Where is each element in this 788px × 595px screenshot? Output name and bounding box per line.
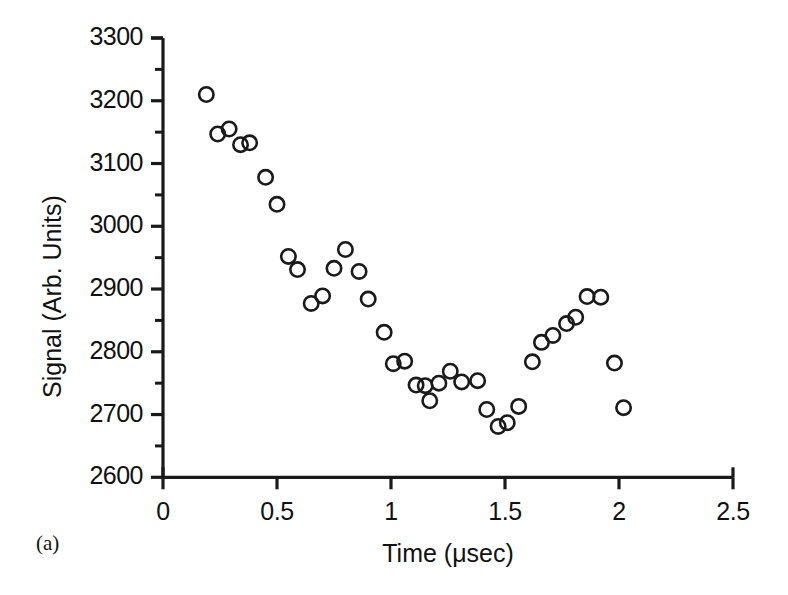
data-point: [454, 375, 468, 389]
data-point: [270, 197, 284, 211]
data-point: [480, 402, 494, 416]
data-point: [470, 373, 484, 387]
y-tick-label: 3300: [43, 22, 143, 51]
data-point: [418, 378, 432, 392]
data-point-markers: [199, 87, 631, 433]
axis-lines: [163, 38, 733, 477]
data-point: [315, 289, 329, 303]
y-tick-label: 3200: [43, 85, 143, 114]
data-point: [607, 356, 621, 370]
data-point: [511, 399, 525, 413]
y-axis-label: Signal (Arb. Units): [38, 195, 67, 398]
y-tick-label: 2700: [43, 399, 143, 428]
y-tick-label: 2600: [43, 461, 143, 490]
data-point: [290, 262, 304, 276]
data-point: [361, 292, 375, 306]
x-tick-label: 0: [128, 497, 198, 526]
data-point: [580, 289, 594, 303]
data-point: [199, 87, 213, 101]
x-tick-label: 0.5: [242, 497, 312, 526]
data-point: [242, 136, 256, 150]
y-tick-label: 3100: [43, 148, 143, 177]
data-point: [432, 376, 446, 390]
data-point: [491, 419, 505, 433]
axis-tick-marks: [151, 38, 733, 489]
x-tick-label: 2: [584, 497, 654, 526]
data-point: [327, 261, 341, 275]
x-tick-label: 1.5: [470, 497, 540, 526]
x-tick-label: 1: [356, 497, 426, 526]
data-point: [281, 249, 295, 263]
data-point: [258, 170, 272, 184]
data-point: [525, 355, 539, 369]
data-point: [352, 264, 366, 278]
data-point: [594, 290, 608, 304]
x-tick-label: 2.5: [698, 497, 768, 526]
data-point: [338, 242, 352, 256]
data-point: [546, 328, 560, 342]
data-point: [616, 400, 630, 414]
x-axis-label: Time (μsec): [338, 539, 558, 568]
data-point: [377, 325, 391, 339]
figure-panel-a: 3300 3200 3100 3000 2900 2800 2700 2600 …: [0, 0, 788, 595]
data-point: [500, 416, 514, 430]
data-point: [423, 394, 437, 408]
panel-label: (a): [36, 531, 59, 556]
